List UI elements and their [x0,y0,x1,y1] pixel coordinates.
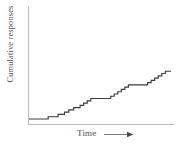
y-axis-label: Cumulative responses [6,11,15,83]
chart-plot-area [0,0,179,147]
cumulative-response-step-curve [29,71,171,119]
x-axis-label: Time [77,128,96,138]
time-arrow-head [127,132,134,138]
cumulative-record-chart: Cumulative responses Time [0,0,179,147]
